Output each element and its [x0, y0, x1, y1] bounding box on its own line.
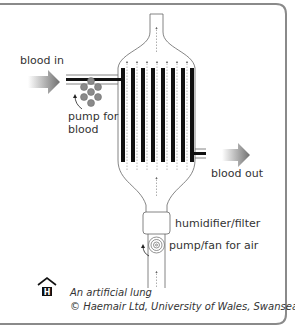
hollow-fibres — [121, 62, 194, 170]
label-humidifier-filter: humidifier/filter — [175, 217, 261, 230]
caption-title: An artificial lung — [69, 287, 152, 298]
label-pump-for-blood-1: pump for — [68, 110, 119, 123]
frame — [0, 4, 286, 324]
blood-out-arrow — [222, 143, 250, 167]
blood-in-arrow — [28, 70, 60, 94]
artificial-lung-diagram: blood in pump for blood blood out humidi… — [0, 0, 295, 333]
blood-pump — [81, 78, 102, 107]
svg-text:H: H — [44, 288, 51, 297]
label-blood-in: blood in — [20, 54, 64, 67]
label-blood-out: blood out — [211, 167, 264, 180]
label-pump-for-blood-2: blood — [68, 123, 98, 136]
air-pump-fan — [149, 237, 165, 253]
label-pump-fan-air: pump/fan for air — [169, 239, 259, 252]
haemair-logo-icon: H — [38, 278, 56, 297]
caption-credit: © Haemair Ltd, University of Wales, Swan… — [70, 301, 295, 312]
blood-outlet-tube — [194, 149, 206, 158]
